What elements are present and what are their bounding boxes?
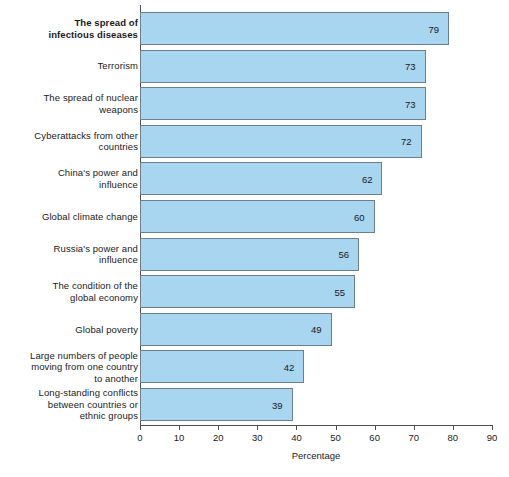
- bar-wrapper: 39: [140, 388, 293, 421]
- bar: 79: [140, 12, 449, 45]
- x-axis-title: Percentage: [140, 450, 492, 461]
- bar: 73: [140, 87, 426, 120]
- bar-wrapper: 73: [140, 50, 426, 83]
- bar-wrapper: 79: [140, 12, 449, 45]
- x-axis-tick-label: 80: [438, 432, 468, 443]
- x-axis-tick-label: 50: [321, 432, 351, 443]
- bar-value-label: 79: [428, 23, 439, 34]
- bar-value-label: 73: [405, 98, 416, 109]
- x-axis-tick: [336, 425, 337, 430]
- bar: 39: [140, 388, 293, 421]
- category-label: Global climate change: [8, 211, 138, 223]
- bar-value-label: 56: [338, 249, 349, 260]
- bar-value-label: 42: [284, 361, 295, 372]
- bar-value-label: 73: [405, 61, 416, 72]
- bar-row: The condition of theglobal economy55: [0, 275, 509, 308]
- bar-value-label: 55: [335, 286, 346, 297]
- x-axis-tick-label: 30: [242, 432, 272, 443]
- category-label: Russia's power andinfluence: [8, 243, 138, 266]
- bar-value-label: 62: [362, 173, 373, 184]
- x-axis-tick: [257, 425, 258, 430]
- bar-wrapper: 72: [140, 125, 422, 158]
- category-label: Cyberattacks from othercountries: [8, 130, 138, 153]
- bar: 56: [140, 238, 359, 271]
- bar-value-label: 39: [272, 399, 283, 410]
- bar-wrapper: 62: [140, 162, 382, 195]
- bar-wrapper: 73: [140, 87, 426, 120]
- category-label: Global poverty: [8, 324, 138, 336]
- x-axis-tick: [492, 425, 493, 430]
- bar-wrapper: 56: [140, 238, 359, 271]
- bar-row: Global climate change60: [0, 200, 509, 233]
- category-label: The condition of theglobal economy: [8, 280, 138, 303]
- x-axis-tick: [140, 425, 141, 430]
- bar: 49: [140, 313, 332, 346]
- bar-rows-container: The spread ofinfectious diseases79Terror…: [0, 0, 509, 425]
- x-axis-tick: [179, 425, 180, 430]
- bar-wrapper: 55: [140, 275, 355, 308]
- bar: 42: [140, 350, 304, 383]
- bar-wrapper: 42: [140, 350, 304, 383]
- category-label: Large numbers of peoplemoving from one c…: [8, 350, 138, 385]
- bar-row: Russia's power andinfluence56: [0, 238, 509, 271]
- x-axis-tick: [414, 425, 415, 430]
- bar-wrapper: 60: [140, 200, 375, 233]
- bar-value-label: 72: [401, 136, 412, 147]
- bar-row: Global poverty49: [0, 313, 509, 346]
- bar-row: Large numbers of peoplemoving from one c…: [0, 350, 509, 383]
- x-axis-tick-label: 10: [164, 432, 194, 443]
- x-axis-tick: [296, 425, 297, 430]
- bar: 60: [140, 200, 375, 233]
- bar-value-label: 60: [354, 211, 365, 222]
- bar-row: Long-standing conflictsbetween countries…: [0, 388, 509, 421]
- bar-row: The spread of nuclearweapons73: [0, 87, 509, 120]
- x-axis-tick: [218, 425, 219, 430]
- category-label: China's power andinfluence: [8, 167, 138, 190]
- bar-wrapper: 49: [140, 313, 332, 346]
- bar: 62: [140, 162, 382, 195]
- bar-value-label: 49: [311, 324, 322, 335]
- category-label: The spread ofinfectious diseases: [8, 17, 138, 40]
- x-axis-tick-label: 40: [281, 432, 311, 443]
- bar: 55: [140, 275, 355, 308]
- bar: 73: [140, 50, 426, 83]
- category-label: Long-standing conflictsbetween countries…: [8, 387, 138, 422]
- bar-row: Cyberattacks from othercountries72: [0, 125, 509, 158]
- bar-row: The spread ofinfectious diseases79: [0, 12, 509, 45]
- x-axis-tick-label: 60: [360, 432, 390, 443]
- category-label: The spread of nuclearweapons: [8, 92, 138, 115]
- bar-row: China's power andinfluence62: [0, 162, 509, 195]
- bar: 72: [140, 125, 422, 158]
- x-axis-tick-label: 70: [399, 432, 429, 443]
- x-axis-tick: [375, 425, 376, 430]
- category-label: Terrorism: [8, 60, 138, 72]
- x-axis-line: [140, 425, 493, 426]
- x-axis-tick-label: 0: [125, 432, 155, 443]
- bar-row: Terrorism73: [0, 50, 509, 83]
- x-axis-tick: [453, 425, 454, 430]
- bar-chart: The spread ofinfectious diseases79Terror…: [0, 0, 509, 477]
- x-axis-tick-label: 20: [203, 432, 233, 443]
- x-axis-tick-label: 90: [477, 432, 507, 443]
